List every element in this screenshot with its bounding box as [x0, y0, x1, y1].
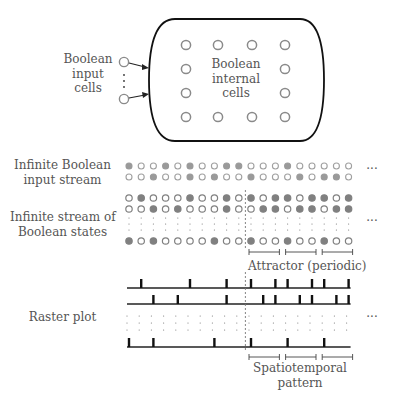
input-dot-on — [224, 163, 230, 169]
state-dot-on — [284, 238, 290, 244]
state-dot-off — [260, 195, 266, 201]
spike — [299, 295, 301, 304]
state-dot-off — [236, 206, 242, 212]
input-dot-on — [333, 174, 339, 180]
state-dot-off — [162, 195, 168, 201]
internal-cell — [181, 112, 190, 121]
state-dot-off — [297, 238, 303, 244]
input-dot-on — [150, 174, 156, 180]
state-dot-on — [309, 206, 315, 212]
input-stream-label: Infinite Boolean input stream — [10, 158, 115, 187]
state-dot-on — [272, 195, 278, 201]
input-dot-off — [297, 163, 303, 169]
diagram-canvas — [0, 0, 393, 404]
input-dot-off — [333, 163, 339, 169]
internal-cell — [247, 40, 256, 49]
raster-plot — [126, 279, 350, 347]
raster-ellipsis: ··· — [360, 310, 384, 325]
input-dot-off — [272, 174, 278, 180]
state-dot-on — [150, 206, 156, 212]
state-dot-on — [248, 195, 254, 201]
state-dot-on — [150, 238, 156, 244]
state-dot-off — [126, 206, 132, 212]
state-dot-off — [187, 206, 193, 212]
internal-cell — [280, 40, 289, 49]
state-dot-off — [297, 195, 303, 201]
state-dot-on — [187, 195, 193, 201]
input-dot-on — [285, 163, 291, 169]
input-dot-off — [346, 163, 352, 169]
spike — [286, 279, 288, 288]
state-dot-on — [175, 206, 181, 212]
state-dot-off — [272, 238, 278, 244]
spike — [189, 279, 191, 288]
state-dot-off — [162, 206, 168, 212]
spike — [140, 279, 142, 288]
state-dot-on — [223, 206, 229, 212]
arrowhead-icon — [142, 92, 149, 98]
input-dot-on — [236, 163, 242, 169]
spike — [347, 279, 349, 288]
state-dot-on — [333, 206, 339, 212]
state-dot-off — [333, 238, 339, 244]
state-dot-on — [284, 195, 290, 201]
state-dot-off — [284, 206, 290, 212]
state-dot-off — [248, 206, 254, 212]
spike — [250, 279, 252, 288]
state-dot-on — [211, 238, 217, 244]
internal-cell — [213, 112, 222, 121]
input-dot-off — [260, 174, 266, 180]
state-dot-on — [345, 206, 351, 212]
input-cell — [119, 94, 128, 103]
internal-cell — [181, 88, 190, 97]
spike — [335, 295, 337, 304]
arrowhead-icon — [142, 64, 149, 70]
state-dot-off — [138, 206, 144, 212]
state-dot-on — [309, 195, 315, 201]
input-dot-on — [248, 174, 254, 180]
state-dot-off — [345, 238, 351, 244]
state-dot-off — [236, 238, 242, 244]
state-dot-on — [248, 238, 254, 244]
internal-cell — [247, 112, 256, 121]
state-dot-on — [272, 206, 278, 212]
state-dot-off — [199, 238, 205, 244]
input-dot-on — [187, 163, 193, 169]
state-dot-off — [223, 238, 229, 244]
state-dot-on — [138, 195, 144, 201]
input-dot-on — [211, 174, 217, 180]
state-dot-off — [126, 195, 132, 201]
internal-cell — [181, 40, 190, 49]
input-dot-on — [163, 163, 169, 169]
state-dot-on — [345, 195, 351, 201]
input-dot-off — [285, 174, 291, 180]
state-dot-off — [333, 195, 339, 201]
internal-cell — [181, 64, 190, 73]
spike — [225, 295, 227, 304]
state-dot-off — [162, 238, 168, 244]
input-dot-off — [309, 163, 315, 169]
state-dot-off — [175, 195, 181, 201]
input-dot-off — [138, 174, 144, 180]
input-dot-on — [321, 174, 327, 180]
input-cell — [119, 57, 128, 66]
input-dot-off — [199, 163, 205, 169]
state-dot-on — [223, 195, 229, 201]
spike — [177, 295, 179, 304]
state-dot-off — [150, 195, 156, 201]
state-dot-off — [187, 238, 193, 244]
state-dot-off — [199, 195, 205, 201]
input-dot-off — [260, 163, 266, 169]
spike — [213, 338, 215, 347]
spike — [323, 279, 325, 288]
state-dot-on — [126, 238, 132, 244]
internal-cell — [280, 64, 289, 73]
state-dot-off — [211, 195, 217, 201]
input-dot-off — [175, 163, 181, 169]
spike — [128, 338, 130, 347]
internal-cell — [280, 88, 289, 97]
input-dot-off — [272, 163, 278, 169]
input-dot-off — [126, 174, 132, 180]
input-ellipsis: ··· — [360, 162, 384, 177]
state-stream-dots — [126, 195, 352, 244]
